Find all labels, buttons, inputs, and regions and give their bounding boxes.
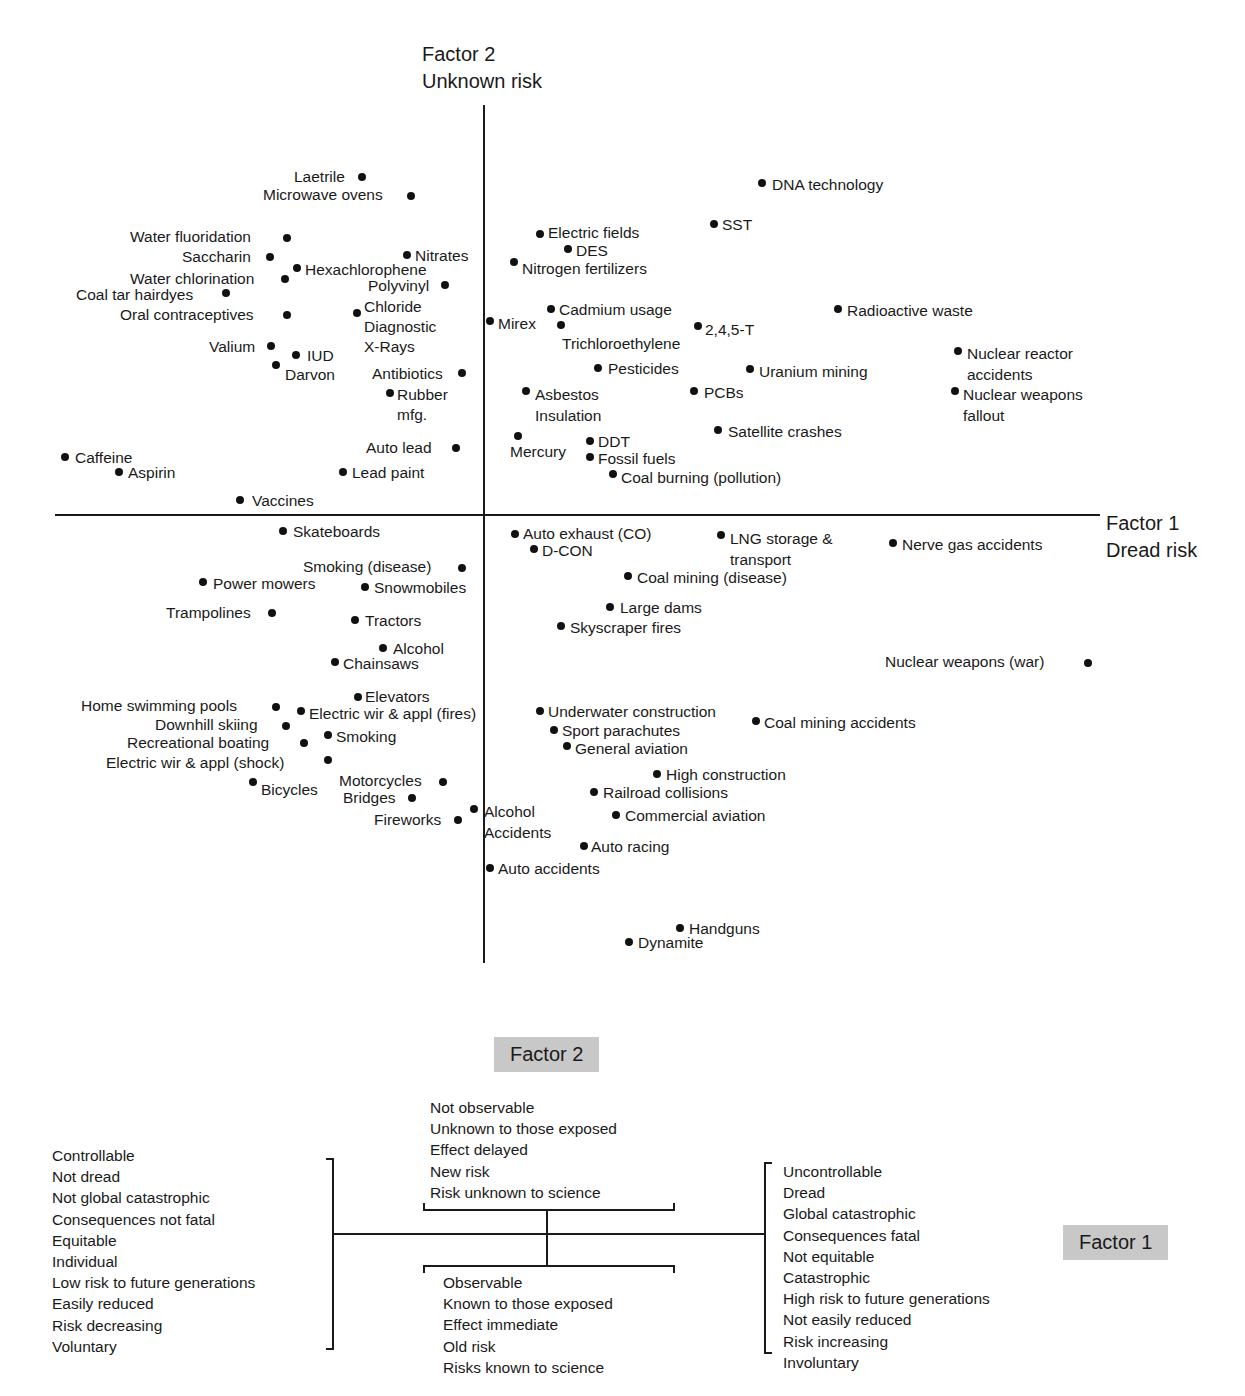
data-point-dot	[710, 220, 718, 228]
data-point-label: Oral contraceptives	[120, 306, 254, 324]
data-point-dot	[354, 693, 362, 701]
data-point-dot	[339, 468, 347, 476]
data-point-dot	[300, 739, 308, 747]
data-point-dot	[676, 924, 684, 932]
data-point-dot	[407, 192, 415, 200]
data-point-dot	[586, 453, 594, 461]
data-point-dot	[267, 342, 275, 350]
risk-perception-chart: Factor 2 Unknown risk Factor 1 Dread ris…	[0, 0, 1245, 1396]
data-point-label: IUD	[307, 347, 334, 365]
data-point-dot	[441, 281, 449, 289]
data-point-label: Vaccines	[252, 492, 314, 510]
data-point-dot	[609, 470, 617, 478]
factor1-right-bracket	[764, 1162, 766, 1354]
data-point-label: Railroad collisions	[603, 784, 728, 802]
data-point-label: Motorcycles	[339, 772, 422, 790]
data-point-dot	[272, 361, 280, 369]
factor1-right-item: Global catastrophic	[783, 1203, 990, 1224]
data-point-label: Skateboards	[293, 523, 380, 541]
data-point-label: 2,4,5-T	[705, 321, 754, 339]
data-point-label: Underwater construction	[548, 703, 716, 721]
data-point-label: Dynamite	[638, 934, 703, 952]
data-point-label: Satellite crashes	[728, 423, 842, 441]
data-point-label: Snowmobiles	[374, 579, 466, 597]
data-point-label: Coal burning (pollution)	[621, 469, 781, 487]
factor1-left-item: Risk decreasing	[52, 1315, 255, 1336]
data-point-dot	[536, 707, 544, 715]
data-point-label: Antibiotics	[372, 365, 443, 383]
data-point-dot	[510, 258, 518, 266]
data-point-label: Uranium mining	[759, 363, 868, 381]
data-point-label: Radioactive waste	[847, 302, 973, 320]
data-point-dot	[550, 726, 558, 734]
factor2-bottom-item: Observable	[443, 1272, 613, 1293]
factor1-left-item: Not global catastrophic	[52, 1187, 255, 1208]
data-point-label: D-CON	[542, 542, 593, 560]
factor1-right-item: Risk increasing	[783, 1331, 990, 1352]
data-point-dot	[236, 496, 244, 504]
data-point-dot	[586, 437, 594, 445]
data-point-dot	[1084, 659, 1092, 667]
data-point-dot	[564, 245, 572, 253]
data-point-label: Coal mining (disease)	[637, 569, 787, 587]
factor1-left-item: Equitable	[52, 1230, 255, 1251]
data-point-dot	[612, 811, 620, 819]
data-point-dot	[386, 389, 394, 397]
data-point-dot	[283, 311, 291, 319]
y-axis-title-line2: Unknown risk	[422, 68, 542, 95]
data-point-dot	[522, 387, 530, 395]
data-point-dot	[266, 253, 274, 261]
data-point-dot	[249, 778, 257, 786]
data-point-dot	[454, 816, 462, 824]
data-point-label: Home swimming pools	[81, 697, 237, 715]
data-point-dot	[557, 321, 565, 329]
data-point-dot	[714, 426, 722, 434]
data-point-dot	[281, 275, 289, 283]
data-point-label: Trichloroethylene	[562, 335, 680, 353]
data-point-label: Lead paint	[352, 464, 424, 482]
data-point-dot	[351, 616, 359, 624]
data-point-label: Skyscraper fires	[570, 619, 681, 637]
data-point-dot	[115, 468, 123, 476]
factor2-bottom-item: Effect immediate	[443, 1314, 613, 1335]
data-point-label: Nuclear weapons fallout	[963, 384, 1083, 426]
data-point-dot	[536, 230, 544, 238]
factor1-left-list: ControllableNot dreadNot global catastro…	[52, 1145, 255, 1357]
data-point-dot	[470, 805, 478, 813]
data-point-dot	[606, 603, 614, 611]
data-point-label: Nuclear reactor accidents	[967, 343, 1073, 385]
data-point-dot	[408, 794, 416, 802]
data-point-label: Elevators	[365, 688, 430, 706]
data-point-label: DNA technology	[772, 176, 883, 194]
data-point-dot	[379, 644, 387, 652]
data-point-label: Auto exhaust (CO)	[523, 525, 651, 543]
data-point-label: Fossil fuels	[598, 450, 676, 468]
data-point-label: Smoking (disease)	[303, 558, 431, 576]
data-point-label: Pesticides	[608, 360, 679, 378]
data-point-dot	[758, 179, 766, 187]
data-point-dot	[746, 365, 754, 373]
data-point-dot	[624, 572, 632, 580]
data-point-dot	[580, 842, 588, 850]
data-point-label: Fireworks	[374, 811, 441, 829]
factor1-left-bracket	[332, 1158, 334, 1350]
data-point-label: Caffeine	[75, 449, 132, 467]
data-point-label: DES	[576, 242, 608, 260]
data-point-dot	[557, 622, 565, 630]
data-point-label: High construction	[666, 766, 786, 784]
data-point-dot	[511, 530, 519, 538]
factor2-badge: Factor 2	[494, 1037, 599, 1072]
data-point-dot	[199, 578, 207, 586]
x-axis-title-line1: Factor 1	[1106, 510, 1197, 537]
factor1-badge: Factor 1	[1063, 1225, 1168, 1260]
factor2-top-bracket-right-tick	[673, 1203, 675, 1211]
data-point-label: Trampolines	[166, 604, 251, 622]
x-axis-title-line2: Dread risk	[1106, 537, 1197, 564]
data-point-label: Polyvinyl	[368, 277, 429, 295]
factor2-top-item: Unknown to those exposed	[430, 1118, 617, 1139]
factor2-bottom-bracket-right-tick	[673, 1265, 675, 1273]
factor1-right-item: Uncontrollable	[783, 1161, 990, 1182]
data-point-label: Coal mining accidents	[764, 714, 916, 732]
factor2-top-item: Risk unknown to science	[430, 1182, 617, 1203]
factor1-left-bracket-top-tick	[326, 1158, 334, 1160]
